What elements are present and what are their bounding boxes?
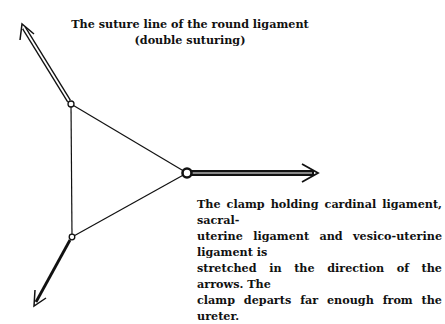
clamp-description-line: clamp departs far enough from the ureter… [197, 292, 442, 324]
edge-top-right [71, 104, 187, 173]
suture-line-label-line: The suture line of the round ligament [40, 16, 340, 32]
bottom-node [69, 234, 75, 240]
clamp-description-line: stretched in the direction of the arrows… [197, 260, 442, 292]
edge-right-bottom [72, 173, 187, 237]
right-clamp-node [183, 169, 192, 178]
lower-left-arrow [34, 240, 70, 306]
clamp-description-line: uterine ligament and vesico-uterine liga… [197, 228, 442, 260]
clamp-description-line: The clamp holding cardinal ligament, sac… [197, 196, 442, 228]
top-suture-node [68, 101, 74, 107]
clamp-description: The clamp holding cardinal ligament, sac… [197, 196, 442, 324]
suture-line-label: The suture line of the round ligament (d… [40, 16, 340, 48]
edge-top-bottom [71, 104, 72, 237]
right-clamp-arrow [190, 164, 318, 182]
suture-line-label-line: (double suturing) [40, 32, 340, 48]
